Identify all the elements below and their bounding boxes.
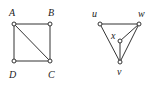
vertex-label-w: w (138, 8, 145, 19)
edge-A-C (14, 24, 50, 61)
vertex-A (12, 22, 16, 26)
vertex-x (118, 39, 122, 43)
vertex-u (98, 22, 102, 26)
vertex-C (48, 59, 52, 63)
vertex-label-D: D (8, 69, 17, 80)
vertex-label-C: C (48, 69, 55, 80)
vertex-label-u: u (92, 8, 97, 19)
vertex-B (48, 22, 52, 26)
edge-w-x (120, 24, 139, 41)
vertex-v (118, 60, 122, 64)
vertex-w (137, 22, 141, 26)
vertex-label-x: x (110, 30, 116, 41)
vertex-label-B: B (48, 7, 54, 18)
edge-u-v (100, 24, 120, 62)
graphs-figure: ABCDuwxv (0, 0, 155, 86)
graph-2: uwxv (92, 8, 145, 77)
vertex-label-v: v (117, 66, 122, 77)
vertex-D (12, 59, 16, 63)
vertex-label-A: A (8, 7, 16, 18)
graph-diagram: ABCDuwxv (0, 0, 155, 86)
graph-1: ABCD (8, 7, 55, 80)
edge-w-v (120, 24, 139, 62)
